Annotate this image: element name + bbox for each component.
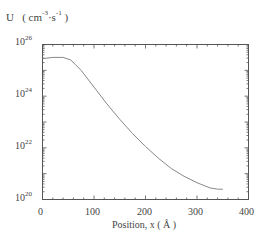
- data-line: [43, 57, 223, 189]
- plot-frame: [43, 45, 249, 200]
- plot-area: [0, 0, 268, 235]
